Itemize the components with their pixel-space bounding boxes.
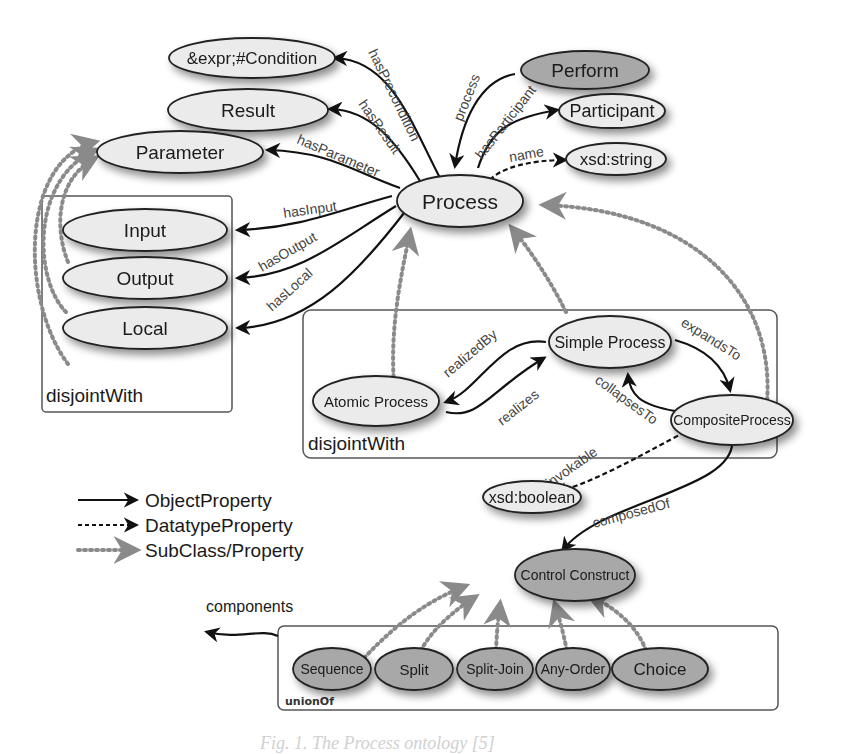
node-xsd-string[interactable]: xsd:string — [566, 143, 666, 175]
svg-text:Local: Local — [122, 318, 167, 339]
svg-text:Choice: Choice — [634, 660, 687, 679]
legend-item-datatype-property: DatatypeProperty — [78, 515, 293, 536]
svg-text:Participant: Participant — [569, 101, 654, 121]
svg-text:Atomic Process: Atomic Process — [324, 393, 428, 410]
edge-label-collapsesto: collapsesTo — [592, 371, 661, 427]
node-output[interactable]: Output — [63, 257, 227, 299]
svg-text:Sequence: Sequence — [300, 661, 363, 677]
node-local[interactable]: Local — [63, 307, 227, 349]
svg-text:ObjectProperty: ObjectProperty — [145, 490, 272, 511]
node-participant[interactable]: Participant — [559, 94, 665, 128]
svg-text:Split-Join: Split-Join — [466, 661, 524, 677]
node-condition[interactable]: &expr;#Condition — [169, 38, 335, 78]
edge-label-realizedby: realizedBy — [440, 326, 500, 380]
svg-text:CompositeProcess: CompositeProcess — [673, 412, 791, 428]
node-xsd-boolean[interactable]: xsd:boolean — [483, 481, 581, 513]
legend-item-subclass-property: SubClass/Property — [78, 540, 304, 561]
svg-text:xsd:boolean: xsd:boolean — [489, 489, 575, 506]
svg-text:Control Construct: Control Construct — [521, 567, 630, 583]
node-perform[interactable]: Perform — [521, 51, 649, 89]
group-label-disjointwith: disjointWith — [46, 385, 143, 406]
svg-text:Split: Split — [399, 661, 429, 678]
node-process[interactable]: Process — [397, 175, 523, 227]
svg-text:Simple Process: Simple Process — [554, 334, 665, 351]
svg-text:Result: Result — [221, 100, 276, 121]
edge-label-hasparameter: hasParameter — [295, 131, 383, 180]
node-control-construct[interactable]: Control Construct — [515, 549, 635, 601]
node-sequence[interactable]: Sequence — [293, 648, 371, 690]
svg-text:DatatypeProperty: DatatypeProperty — [145, 515, 293, 536]
node-any-order[interactable]: Any-Order — [536, 648, 610, 690]
svg-text:Output: Output — [116, 268, 174, 289]
svg-text:Input: Input — [124, 220, 167, 241]
group-label-unionof: unionOf — [285, 695, 334, 708]
node-split[interactable]: Split — [375, 648, 453, 690]
legend-item-object-property: ObjectProperty — [78, 490, 272, 511]
node-result[interactable]: Result — [168, 89, 328, 131]
group-label-disjointwith: disjointWith — [308, 433, 405, 454]
node-input[interactable]: Input — [63, 209, 227, 251]
svg-text:Perform: Perform — [551, 60, 619, 81]
edge-label-composedof: composedOf — [591, 495, 672, 531]
node-composite-process[interactable]: CompositeProcess — [671, 395, 793, 445]
node-simple-process[interactable]: Simple Process — [549, 316, 671, 368]
edge-label-realizes: realizes — [494, 386, 542, 428]
node-atomic-process[interactable]: Atomic Process — [313, 376, 439, 426]
svg-text:Process: Process — [422, 190, 498, 213]
svg-text:xsd:string: xsd:string — [580, 150, 653, 169]
edge-label-name: name — [508, 143, 545, 165]
nodes: &expr;#Condition Result Parameter Input … — [63, 38, 793, 690]
svg-text:Any-Order: Any-Order — [541, 661, 606, 677]
edge-label-hasinput: hasInput — [282, 198, 338, 221]
legend: ObjectProperty DatatypeProperty SubClass… — [78, 490, 304, 561]
node-split-join[interactable]: Split-Join — [457, 648, 533, 690]
node-parameter[interactable]: Parameter — [97, 131, 263, 173]
figure-caption: Fig. 1. The Process ontology [5] — [260, 733, 495, 754]
edge-label-expandsto: expandsTo — [678, 314, 744, 364]
node-choice[interactable]: Choice — [612, 648, 708, 690]
edge-label-components: components — [206, 598, 293, 615]
svg-text:&expr;#Condition: &expr;#Condition — [187, 49, 317, 68]
svg-text:Parameter: Parameter — [136, 142, 225, 163]
svg-text:SubClass/Property: SubClass/Property — [145, 540, 304, 561]
